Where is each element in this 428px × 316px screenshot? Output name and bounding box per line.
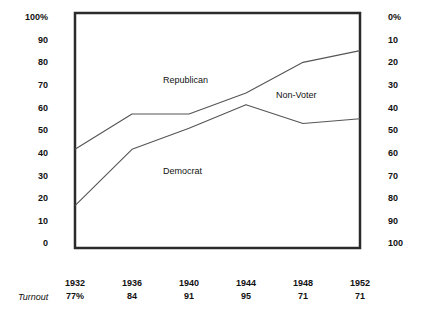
y-axis-left-tick: 30	[8, 171, 48, 181]
y-axis-right-tick: 90	[388, 216, 428, 226]
y-axis-right-tick: 100	[388, 238, 428, 248]
y-axis-right-tick: 50	[388, 125, 428, 135]
series-annotation: Republican	[163, 75, 208, 85]
y-axis-right-tick: 40	[388, 103, 428, 113]
y-axis-right-tick: 0%	[388, 12, 428, 22]
series-annotation: Democrat	[163, 166, 202, 176]
x-axis-turnout-value: 71	[278, 291, 328, 302]
y-axis-right-tick: 30	[388, 80, 428, 90]
y-axis-right-tick: 20	[388, 57, 428, 67]
plot-frame	[75, 13, 360, 248]
y-axis-left-tick: 0	[8, 238, 48, 248]
x-axis-year-label: 1944	[221, 278, 271, 289]
x-axis-year-label: 1940	[164, 278, 214, 289]
y-axis-left-tick: 40	[8, 148, 48, 158]
y-axis-right-tick: 80	[388, 193, 428, 203]
y-axis-left-tick: 90	[8, 35, 48, 45]
y-axis-right-tick: 10	[388, 35, 428, 45]
x-axis-year-label: 1952	[335, 278, 385, 289]
series-line-republican	[75, 51, 360, 150]
y-axis-left-tick: 20	[8, 193, 48, 203]
chart-container: 100%9080706050403020100 0%10203040506070…	[0, 0, 428, 316]
x-axis-turnout-value: 77%	[50, 291, 100, 302]
y-axis-right-tick: 60	[388, 148, 428, 158]
chart-plot-svg	[0, 0, 428, 316]
series-line-democrat	[75, 105, 360, 206]
y-axis-left-tick: 10	[8, 216, 48, 226]
x-axis-turnout-value: 84	[107, 291, 157, 302]
x-axis-year-label: 1932	[50, 278, 100, 289]
x-axis-turnout-value: 71	[335, 291, 385, 302]
y-axis-left-tick: 60	[8, 103, 48, 113]
y-axis-right-tick: 70	[388, 171, 428, 181]
y-axis-left-tick: 50	[8, 125, 48, 135]
x-axis-year-label: 1936	[107, 278, 157, 289]
y-axis-left-tick: 70	[8, 80, 48, 90]
x-axis-turnout-value: 91	[164, 291, 214, 302]
x-axis-turnout-value: 95	[221, 291, 271, 302]
y-axis-left-tick: 80	[8, 57, 48, 67]
x-axis-year-label: 1948	[278, 278, 328, 289]
y-axis-left-tick: 100%	[8, 12, 48, 22]
series-annotation: Non-Voter	[276, 90, 317, 100]
turnout-caption: Turnout	[18, 292, 48, 303]
